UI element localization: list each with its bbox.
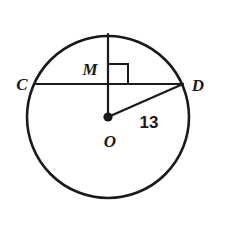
geometry-diagram-canvas: C D M O 13 (0, 0, 227, 231)
right-angle-marker-icon (108, 64, 128, 84)
label-point-m: M (81, 60, 98, 79)
circle-geometry-figure: C D M O 13 (0, 0, 227, 231)
label-point-o: O (104, 132, 116, 151)
center-point-dot (103, 112, 112, 121)
label-radius-measure: 13 (140, 113, 159, 132)
label-point-d: D (191, 76, 204, 95)
label-point-c: C (16, 75, 28, 94)
